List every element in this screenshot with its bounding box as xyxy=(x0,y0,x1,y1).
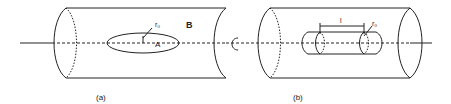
radius-label-b: r₀ xyxy=(372,20,377,27)
radius-leader-b xyxy=(364,26,372,36)
radius-label-a: r₀ xyxy=(155,21,160,28)
caption-b: (b) xyxy=(293,93,303,102)
inner-label-a: A xyxy=(155,40,161,49)
length-label: l xyxy=(340,17,342,24)
caption-a: (a) xyxy=(96,93,106,102)
rotation-arrow-icon xyxy=(232,38,238,50)
region-label-b: B xyxy=(186,20,193,30)
diagram-canvas: r₀ B A l r₀ (a) (b) xyxy=(0,0,451,104)
